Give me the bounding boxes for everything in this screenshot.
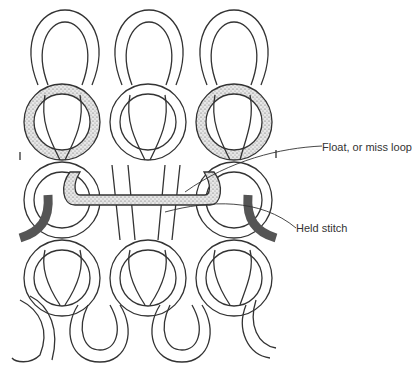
top-loops	[31, 10, 268, 85]
row-2-rings	[20, 84, 276, 160]
knit-diagram	[0, 0, 415, 377]
float-label: Float, or miss loop	[322, 141, 412, 153]
row-4-rings	[24, 240, 272, 316]
row-3-rings	[20, 162, 276, 240]
held-stitch-label: Held stitch	[296, 222, 347, 234]
